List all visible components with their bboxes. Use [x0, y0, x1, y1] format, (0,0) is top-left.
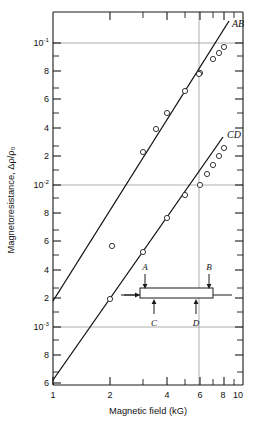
data-point: [164, 110, 169, 115]
data-point: [107, 296, 112, 301]
y-axis-ticks-left: [53, 43, 61, 383]
data-point-outlier-ab: [109, 243, 114, 248]
series-cd: CD: [53, 129, 242, 380]
y-tick-label-4e-2: 4: [44, 123, 49, 133]
inset-label-a: A: [141, 262, 148, 272]
data-point: [182, 88, 187, 93]
y-tick-label-6e-3: 6: [44, 236, 49, 246]
y-tick-label-1e-3: 10-3: [33, 320, 49, 332]
x-tick-label-8: 8: [220, 390, 225, 400]
y-tick-label-2e-2: 2: [44, 151, 49, 161]
x-tick-label-10: 10: [233, 390, 243, 400]
probe-arrow-a: [143, 274, 148, 289]
inset-label-b: B: [206, 262, 212, 272]
x-tick-label-2: 2: [107, 390, 112, 400]
sample-bar: [140, 288, 213, 298]
data-point: [221, 44, 226, 49]
series-ab: AB: [53, 18, 244, 301]
data-point: [221, 145, 226, 150]
curve-label-cd: CD: [227, 129, 242, 140]
x-tick-label-6: 6: [197, 390, 202, 400]
y-tick-label-8e-3: 8: [44, 208, 49, 218]
x-axis-ticks-top: [110, 12, 234, 20]
data-point: [164, 215, 169, 220]
inset-label-c: C: [151, 318, 158, 328]
data-point: [140, 149, 145, 154]
data-point: [153, 126, 158, 131]
data-point: [210, 162, 215, 167]
y-tick-label-2e-3: 2: [44, 293, 49, 303]
data-point: [204, 171, 209, 176]
y-tick-label-6e-4: 6: [44, 378, 49, 388]
data-point: [197, 182, 202, 187]
x-tick-label-4: 4: [164, 390, 169, 400]
y-tick-label-1e-2: 10-2: [33, 178, 49, 190]
x-axis-title: Magnetic field (kG): [109, 406, 187, 416]
x-axis-ticks-bottom: [53, 377, 234, 385]
x-tick-labels: 1 2 4 6 8 10: [50, 390, 243, 400]
probe-arrow-b: [207, 274, 212, 289]
data-point: [210, 56, 215, 61]
current-arrow-left: [124, 293, 140, 298]
probe-arrow-c: [152, 299, 157, 314]
data-point: [216, 50, 221, 55]
data-point: [196, 71, 201, 76]
y-axis-ticks-right: [235, 43, 243, 372]
probe-arrow-d: [194, 299, 199, 314]
data-point: [140, 249, 145, 254]
plot-frame: [53, 12, 243, 385]
y-tick-label-6e-2: 6: [44, 94, 49, 104]
chart-svg: 10-1 8 6 4 2 10-2 8 6 4 2 10-3 8 6 1 2 4…: [0, 0, 258, 443]
data-point: [216, 153, 221, 158]
sample-geometry-inset: A B C D: [121, 262, 232, 328]
y-tick-label-8e-4: 8: [44, 350, 49, 360]
y-axis-title: Magnetoresistance, Δρ/ρ₀: [6, 146, 16, 253]
series-ab-fit-line: [53, 21, 229, 301]
inset-label-d: D: [192, 318, 200, 328]
y-tick-labels: 10-1 8 6 4 2 10-2 8 6 4 2 10-3 8 6: [33, 36, 49, 388]
data-point: [182, 192, 187, 197]
gridlines: [53, 12, 243, 385]
curve-label-ab: AB: [231, 18, 244, 29]
x-tick-label-1: 1: [50, 390, 55, 400]
y-tick-label-4e-3: 4: [44, 265, 49, 275]
y-tick-label-1e-1: 10-1: [33, 36, 49, 48]
series-cd-fit-line: [53, 137, 223, 380]
magnetoresistance-figure: 10-1 8 6 4 2 10-2 8 6 4 2 10-3 8 6 1 2 4…: [0, 0, 258, 443]
y-tick-label-8e-2: 8: [44, 66, 49, 76]
